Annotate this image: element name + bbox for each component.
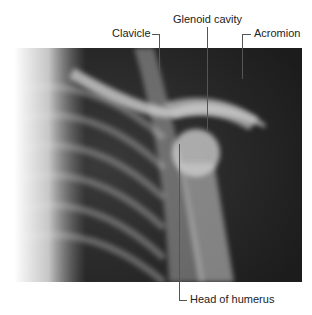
label-glenoid-cavity: Glenoid cavity bbox=[173, 13, 242, 25]
leader-line-humerus-h bbox=[179, 300, 187, 301]
label-acromion: Acromion bbox=[254, 27, 300, 39]
leader-line-glenoid bbox=[207, 27, 208, 131]
leader-line-acromion-v bbox=[242, 34, 243, 79]
leader-line-acromion bbox=[242, 34, 251, 35]
shoulder-xray-image bbox=[14, 48, 302, 282]
leader-line-clavicle-v bbox=[159, 34, 160, 74]
label-clavicle: Clavicle bbox=[112, 27, 151, 39]
leader-line-humerus-v bbox=[179, 144, 180, 300]
label-head-of-humerus: Head of humerus bbox=[190, 293, 274, 305]
